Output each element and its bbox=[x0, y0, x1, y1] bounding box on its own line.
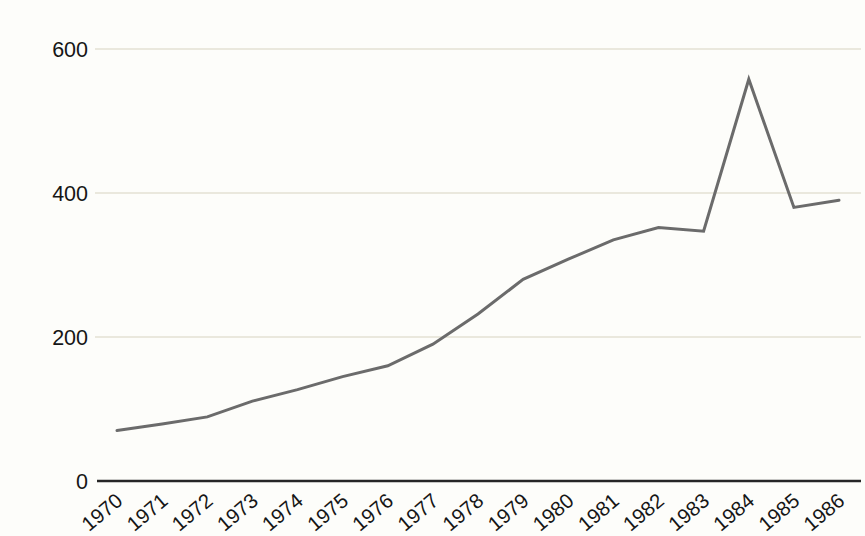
x-tick-label: 1973 bbox=[212, 488, 262, 535]
x-tick-label: 1986 bbox=[799, 488, 849, 535]
x-tick-label: 1978 bbox=[438, 488, 488, 535]
x-tick-label: 1979 bbox=[483, 488, 533, 535]
x-tick-label: 1976 bbox=[348, 488, 398, 535]
x-tick-label: 1985 bbox=[754, 488, 804, 535]
line-chart-svg: 0200400600197019711972197319741975197619… bbox=[40, 16, 865, 536]
x-tick-label: 1983 bbox=[663, 488, 713, 535]
x-tick-label: 1970 bbox=[77, 488, 127, 535]
x-tick-label: 1982 bbox=[618, 488, 668, 535]
data-line bbox=[117, 79, 839, 430]
x-tick-label: 1971 bbox=[122, 488, 172, 535]
x-tick-label: 1977 bbox=[393, 488, 443, 535]
x-tick-label: 1972 bbox=[167, 488, 217, 535]
x-tick-label: 1980 bbox=[528, 488, 578, 535]
y-tick-label: 600 bbox=[52, 38, 88, 62]
y-tick-label: 400 bbox=[52, 182, 88, 206]
x-tick-label: 1981 bbox=[573, 488, 623, 535]
y-tick-label: 200 bbox=[52, 326, 88, 350]
y-tick-label: 0 bbox=[76, 470, 88, 494]
x-tick-label: 1984 bbox=[709, 488, 759, 535]
x-tick-label: 1974 bbox=[257, 488, 307, 535]
line-chart: 0200400600197019711972197319741975197619… bbox=[40, 16, 865, 536]
x-tick-label: 1975 bbox=[302, 488, 352, 535]
